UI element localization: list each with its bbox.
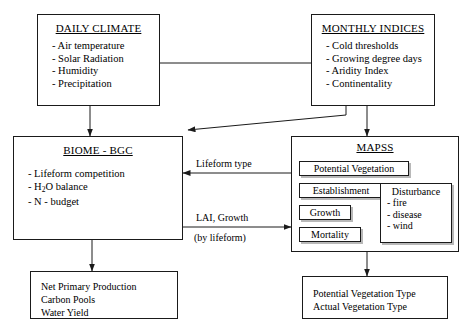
disturbance-title: Disturbance xyxy=(381,186,451,197)
monthly-indices-box: MONTHLY INDICES - Cold thresholds - Grow… xyxy=(311,14,435,106)
list-item: - Growing degree days xyxy=(326,53,434,66)
growth-chip: Growth xyxy=(299,205,351,220)
disturbance-item: - fire xyxy=(387,197,451,209)
list-item: - N - budget xyxy=(28,196,182,209)
output-line: Net Primary Production xyxy=(41,280,177,293)
edge-label-lifeform-type: Lifeform type xyxy=(196,158,252,169)
mortality-chip: Mortality xyxy=(299,227,361,242)
disturbance-box: Disturbance - fire - disease - wind xyxy=(380,183,452,243)
daily-climate-items: - Air temperature - Solar Radiation - Hu… xyxy=(52,40,159,90)
mapss-output-box: Potential Vegetation Type Actual Vegetat… xyxy=(302,276,448,319)
output-line: Carbon Pools xyxy=(41,293,177,306)
monthly-indices-title: MONTHLY INDICES xyxy=(312,22,434,34)
edge-label-by-lifeform: (by lifeform) xyxy=(194,232,246,243)
biome-output-box: Net Primary Production Carbon Pools Wate… xyxy=(30,271,178,319)
list-item: - Aridity Index xyxy=(326,65,434,78)
list-item: - Solar Radiation xyxy=(52,53,159,66)
mapss-title: MAPSS xyxy=(292,141,458,153)
mortality-label: Mortality xyxy=(311,229,349,240)
monthly-indices-items: - Cold thresholds - Growing degree days … xyxy=(326,40,434,90)
list-item: - Air temperature xyxy=(52,40,159,53)
biome-bgc-box: BIOME - BGC - Lifeform competition - H2O… xyxy=(13,136,183,240)
mapss-box: MAPSS Potential Vegetation Establishment… xyxy=(291,136,459,252)
list-item: - Precipitation xyxy=(52,78,159,91)
output-line: Potential Vegetation Type xyxy=(313,287,447,300)
edge-label-lai-growth: LAI, Growth xyxy=(196,212,248,223)
output-line: Water Yield xyxy=(41,306,177,319)
list-item: - Cold thresholds xyxy=(326,40,434,53)
growth-label: Growth xyxy=(310,207,341,218)
list-item: - Lifeform competition xyxy=(28,168,182,181)
disturbance-item: - wind xyxy=(387,220,451,232)
establishment-label: Establishment xyxy=(313,185,370,196)
biome-output-lines: Net Primary Production Carbon Pools Wate… xyxy=(41,280,177,319)
daily-climate-box: DAILY CLIMATE - Air temperature - Solar … xyxy=(37,14,160,106)
disturbance-item: - disease xyxy=(387,209,451,221)
potential-vegetation-chip: Potential Vegetation xyxy=(299,161,409,176)
edge-indices-to-biome xyxy=(188,106,346,130)
output-line: Actual Vegetation Type xyxy=(313,300,447,313)
biome-bgc-title: BIOME - BGC xyxy=(14,144,182,156)
list-item: - Continentality xyxy=(326,78,434,91)
daily-climate-title: DAILY CLIMATE xyxy=(38,22,159,34)
diagram-canvas: DAILY CLIMATE - Air temperature - Solar … xyxy=(0,0,469,329)
biome-bgc-items: - Lifeform competition - H2O balance - N… xyxy=(28,168,182,209)
h2o-prefix: - H xyxy=(28,181,42,192)
establishment-chip: Establishment xyxy=(299,183,383,198)
list-item: - Humidity xyxy=(52,65,159,78)
mapss-output-lines: Potential Vegetation Type Actual Vegetat… xyxy=(313,287,447,313)
h2o-suffix: O balance xyxy=(45,181,87,192)
potential-vegetation-label: Potential Vegetation xyxy=(314,163,395,174)
list-item-h2o: - H2O balance xyxy=(28,181,182,197)
